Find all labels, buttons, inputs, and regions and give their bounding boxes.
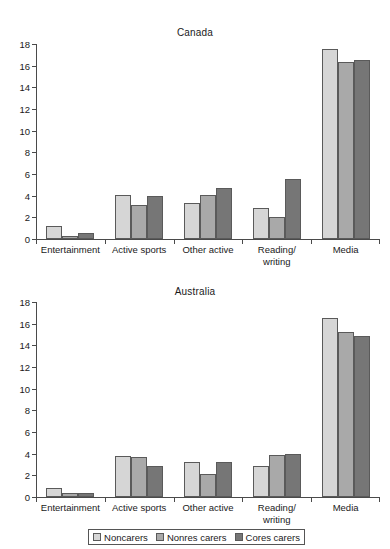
chart-title-canada: Canada <box>0 27 390 38</box>
bar-group <box>311 44 380 239</box>
plot-area-canada: 024681012141618 <box>36 44 380 240</box>
y-tick-label: 2 <box>25 212 30 223</box>
bar <box>184 462 200 497</box>
bar <box>78 233 94 240</box>
bar <box>269 217 285 239</box>
bar <box>147 196 163 239</box>
y-tick-label: 10 <box>19 383 30 394</box>
y-tick-label: 0 <box>25 234 30 245</box>
bar <box>200 474 216 497</box>
legend-item-2: Cores carers <box>235 532 300 543</box>
legend-swatch-icon <box>93 533 101 541</box>
bar-group <box>174 302 243 497</box>
plot-area-australia: 024681012141618 <box>36 302 380 498</box>
bar <box>354 60 370 239</box>
bar-group <box>105 302 174 497</box>
bar-group <box>36 302 105 497</box>
y-tick-label: 18 <box>19 297 30 308</box>
chart-panel-australia: Australia 024681012141618 EntertainmentA… <box>0 278 390 528</box>
bar <box>184 203 200 239</box>
bar <box>322 318 338 497</box>
x-axis-label: Media <box>299 244 390 256</box>
x-tick-labels-canada: EntertainmentActive sportsOther activeRe… <box>36 244 380 270</box>
bar <box>131 457 147 497</box>
x-axis-label: Media <box>299 502 390 514</box>
y-tick-label: 2 <box>25 470 30 481</box>
y-tick-label: 14 <box>19 82 30 93</box>
bar <box>338 332 354 497</box>
bar <box>200 195 216 239</box>
legend-swatch-icon <box>235 533 243 541</box>
bar <box>338 62 354 239</box>
bar <box>269 455 285 497</box>
y-tick-label: 6 <box>25 169 30 180</box>
bar <box>131 205 147 239</box>
y-tick-label: 10 <box>19 125 30 136</box>
x-tick-labels-australia: EntertainmentActive sportsOther activeRe… <box>36 502 380 528</box>
y-tick-label: 8 <box>25 405 30 416</box>
chart-panel-canada: Canada 024681012141618 EntertainmentActi… <box>0 0 390 278</box>
bar-group <box>105 44 174 239</box>
bar <box>216 462 232 497</box>
bar <box>62 493 78 497</box>
legend-label: Cores carers <box>246 532 300 543</box>
y-tick-label: 14 <box>19 340 30 351</box>
y-tick-label: 16 <box>19 60 30 71</box>
bar <box>62 236 78 239</box>
bar <box>285 454 301 497</box>
y-tick-label: 12 <box>19 362 30 373</box>
chart-legend: NoncarersNonres carersCores carers <box>88 529 305 545</box>
bar <box>46 226 62 239</box>
bar-group <box>242 44 311 239</box>
bar <box>78 493 94 497</box>
x-axis-canada <box>36 239 380 240</box>
bar <box>354 336 370 497</box>
bar <box>253 466 269 497</box>
bar <box>46 488 62 497</box>
y-tick-label: 0 <box>25 492 30 503</box>
bar-group <box>36 44 105 239</box>
y-tick-label: 12 <box>19 104 30 115</box>
legend-item-1: Nonres carers <box>156 532 227 543</box>
x-axis-australia <box>36 497 380 498</box>
bar <box>253 208 269 239</box>
bar <box>147 466 163 497</box>
legend-label: Nonres carers <box>167 532 227 543</box>
legend-label: Noncarers <box>104 532 148 543</box>
legend-swatch-icon <box>156 533 164 541</box>
bar-group <box>242 302 311 497</box>
legend-item-0: Noncarers <box>93 532 148 543</box>
bar <box>115 195 131 239</box>
bar-group <box>311 302 380 497</box>
chart-title-australia: Australia <box>0 286 390 297</box>
bar <box>115 456 131 497</box>
bar <box>285 179 301 239</box>
y-tick-label: 18 <box>19 39 30 50</box>
y-tick-label: 4 <box>25 190 30 201</box>
bar-group <box>174 44 243 239</box>
y-tick-label: 6 <box>25 427 30 438</box>
y-tick-label: 16 <box>19 318 30 329</box>
y-tick-label: 4 <box>25 448 30 459</box>
bar <box>216 188 232 239</box>
bar <box>322 49 338 239</box>
y-tick-label: 8 <box>25 147 30 158</box>
